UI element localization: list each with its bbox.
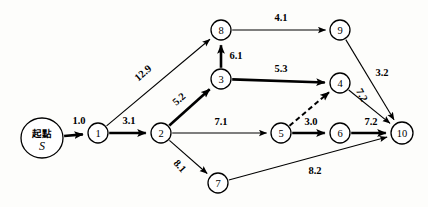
node-4-label: 4 xyxy=(337,78,343,89)
edge-weight-5-6: 3.0 xyxy=(304,116,317,127)
node-6[interactable]: 6 xyxy=(330,123,350,143)
node-10-label: 10 xyxy=(397,128,408,139)
node-4[interactable]: 4 xyxy=(330,73,350,93)
edge-3-to-4 xyxy=(232,79,325,82)
node-1[interactable]: 1 xyxy=(88,123,108,143)
nodes-layer: 起點S12345678910 xyxy=(21,20,413,193)
node-5[interactable]: 5 xyxy=(271,123,291,143)
edge-1-to-8 xyxy=(107,39,210,126)
node-8[interactable]: 8 xyxy=(211,20,231,40)
edge-weight-1-2: 3.1 xyxy=(122,115,135,126)
node-2[interactable]: 2 xyxy=(151,123,171,143)
edge-weight-1-8: 12.9 xyxy=(132,63,153,83)
node-2-label: 2 xyxy=(158,128,163,139)
edge-weight-9-10: 3.2 xyxy=(375,67,388,78)
node-7-label: 7 xyxy=(215,178,220,189)
edge-weight-3-4: 5.3 xyxy=(274,63,287,74)
node-10[interactable]: 10 xyxy=(391,122,413,144)
node-7[interactable]: 7 xyxy=(208,173,228,193)
edge-weight-8-9: 4.1 xyxy=(274,12,287,23)
edge-weight-3-8: 6.1 xyxy=(229,50,242,61)
network-diagram-canvas: 起點S12345678910 1.03.112.95.27.18.16.15.3… xyxy=(0,0,428,207)
network-diagram-svg: 起點S12345678910 1.03.112.95.27.18.16.15.3… xyxy=(0,0,428,207)
node-start-S[interactable]: 起點S xyxy=(21,118,63,158)
edge-weight-2-7: 8.1 xyxy=(172,157,189,174)
node-9-label: 9 xyxy=(337,25,342,36)
edge-weight-7-10: 8.2 xyxy=(308,165,321,176)
node-6-label: 6 xyxy=(337,128,342,139)
node-8-label: 8 xyxy=(218,25,223,36)
edge-weight-6-10: 7.2 xyxy=(364,116,377,127)
node-3-label: 3 xyxy=(218,74,223,85)
edge-weight-S-1: 1.0 xyxy=(72,115,85,126)
node-9[interactable]: 9 xyxy=(330,20,350,40)
node-start-label-cn: 起點 xyxy=(31,128,52,139)
node-3[interactable]: 3 xyxy=(211,69,231,89)
node-1-label: 1 xyxy=(95,128,100,139)
node-5-label: 5 xyxy=(278,128,283,139)
edge-weight-2-5: 7.1 xyxy=(214,116,227,127)
node-start-label-symbol: S xyxy=(39,139,45,153)
edge-weight-2-3: 5.2 xyxy=(170,91,187,108)
edge-S-to-1 xyxy=(64,134,83,136)
edge-weight-4-10: 7.2 xyxy=(354,87,370,104)
